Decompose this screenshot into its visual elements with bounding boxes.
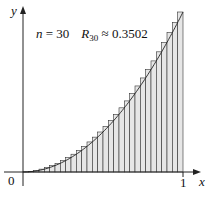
y-axis-label: y bbox=[9, 3, 17, 18]
riemann-bar bbox=[119, 108, 124, 172]
riemann-bar bbox=[151, 61, 156, 172]
riemann-bar bbox=[87, 142, 92, 172]
riemann-bar bbox=[135, 86, 140, 172]
riemann-bar bbox=[108, 121, 113, 172]
riemann-bar bbox=[146, 70, 151, 172]
riemann-bar bbox=[167, 33, 172, 172]
riemann-bar bbox=[130, 94, 135, 172]
riemann-annotation: n = 30R30 ≈ 0.3502 bbox=[36, 26, 148, 43]
riemann-bar bbox=[162, 42, 167, 172]
riemann-bar bbox=[98, 132, 103, 172]
riemann-bar bbox=[124, 101, 129, 172]
x-axis-label: x bbox=[198, 174, 205, 189]
riemann-bar bbox=[92, 137, 97, 172]
riemann-bar bbox=[140, 78, 145, 172]
riemann-bar bbox=[103, 127, 108, 173]
riemann-bar bbox=[178, 12, 183, 172]
riemann-bar bbox=[114, 114, 119, 172]
riemann-bar bbox=[172, 23, 177, 173]
x-tick-label-1: 1 bbox=[180, 175, 187, 190]
origin-label: 0 bbox=[8, 173, 15, 188]
plot-area: y x 0 1 n = 30R30 ≈ 0.3502 bbox=[0, 0, 206, 197]
riemann-bar bbox=[156, 52, 161, 172]
y-axis-arrow-icon bbox=[20, 6, 26, 14]
riemann-sum-figure: y x 0 1 n = 30R30 ≈ 0.3502 bbox=[0, 0, 206, 197]
